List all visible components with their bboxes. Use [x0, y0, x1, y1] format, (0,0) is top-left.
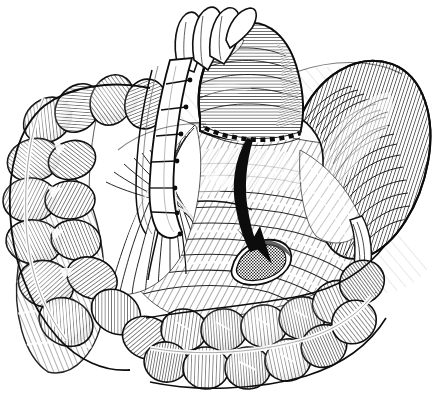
illustration-canvas	[0, 0, 440, 400]
anatomical-figure: Anatomical line-art illustration of the …	[0, 0, 440, 400]
